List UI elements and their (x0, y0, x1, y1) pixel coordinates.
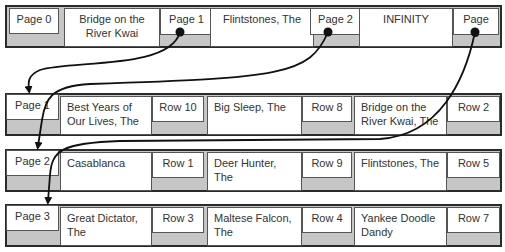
leaf-key: Best Years of Our Lives, The (60, 96, 152, 135)
leaf-row: Row 9 (302, 152, 352, 178)
leaf-row: Row 4 (302, 207, 352, 233)
root-page: Page 0 Bridge on the River Kwai Page 1 F… (5, 5, 502, 48)
leaf-page-3: Page 3 Great Dictator, The Row 3 Maltese… (5, 204, 502, 247)
leaf-page-2: Page 2 Casablanca Row 1 Deer Hunter, The… (5, 149, 502, 192)
leaf-key: Casablanca (60, 152, 152, 191)
root-key: INFINITY (359, 8, 453, 47)
leaf-key: Bridge on the River Kwai, The (354, 96, 447, 135)
leaf-row: Row 1 (152, 152, 204, 178)
leaf-key: Flintstones, The (354, 152, 447, 191)
leaf-row: Row 5 (447, 152, 500, 178)
leaf-page-1: Page 1 Best Years of Our Lives, The Row … (5, 93, 502, 136)
page-label: Page 0 (9, 8, 59, 34)
leaf-row: Row 10 (152, 96, 204, 122)
leaf-row: Row 7 (447, 207, 500, 233)
leaf-row: Row 8 (302, 96, 352, 122)
root-key: Bridge on the River Kwai (64, 8, 160, 47)
leaf-key: Yankee Doodle Dandy (354, 207, 447, 246)
leaf-key: Maltese Falcon, The (207, 207, 302, 246)
root-key: Flintstones, The (210, 8, 314, 47)
page-label: Page 1 (6, 94, 59, 120)
leaf-key: Big Sleep, The (207, 96, 302, 135)
root-pointer: Page 2 (310, 8, 361, 35)
page-label: Page 3 (6, 205, 59, 231)
leaf-key: Deer Hunter, The (207, 152, 302, 191)
root-pointer: Page 3 (453, 8, 499, 35)
leaf-key: Great Dictator, The (60, 207, 152, 246)
leaf-row: Row 3 (152, 207, 204, 233)
leaf-row: Row 2 (447, 96, 500, 122)
page-label: Page 2 (6, 150, 59, 176)
root-pointer: Page 1 (160, 8, 213, 35)
